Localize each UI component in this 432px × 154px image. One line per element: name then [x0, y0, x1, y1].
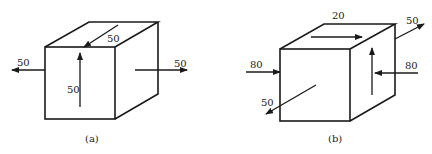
stress-label-a-top: 50 [107, 33, 120, 44]
stress-label-b-corner: 50 [406, 15, 419, 26]
stress-label-a-front: 50 [67, 84, 80, 95]
stress-arrow-b-corner: 50 [395, 15, 424, 39]
stress-arrow-a-top: 50 [84, 25, 120, 47]
stress-arrow-b-front: 50 [261, 85, 316, 114]
stress-arrow-b-left: 80 [246, 59, 280, 72]
stress-label-b-right: 80 [405, 60, 418, 71]
stress-element-figure: 50 50 50 50 (a) 20 50 80 80 [0, 0, 432, 154]
stress-arrow-a-right: 50 [135, 58, 187, 70]
cube-a-top-face [45, 22, 158, 47]
stress-arrow-b-right: 80 [375, 60, 418, 73]
stress-label-b-left: 80 [250, 59, 263, 70]
stress-label-b-front: 50 [261, 97, 274, 108]
stress-label-a-left: 50 [17, 57, 30, 68]
stress-arrow-a-front: 50 [67, 53, 80, 107]
stress-arrow-a-left: 50 [12, 57, 45, 70]
stress-label-a-right: 50 [174, 58, 187, 69]
caption-a: (a) [85, 133, 99, 144]
stress-label-b-top: 20 [332, 10, 345, 21]
caption-b: (b) [328, 133, 342, 144]
